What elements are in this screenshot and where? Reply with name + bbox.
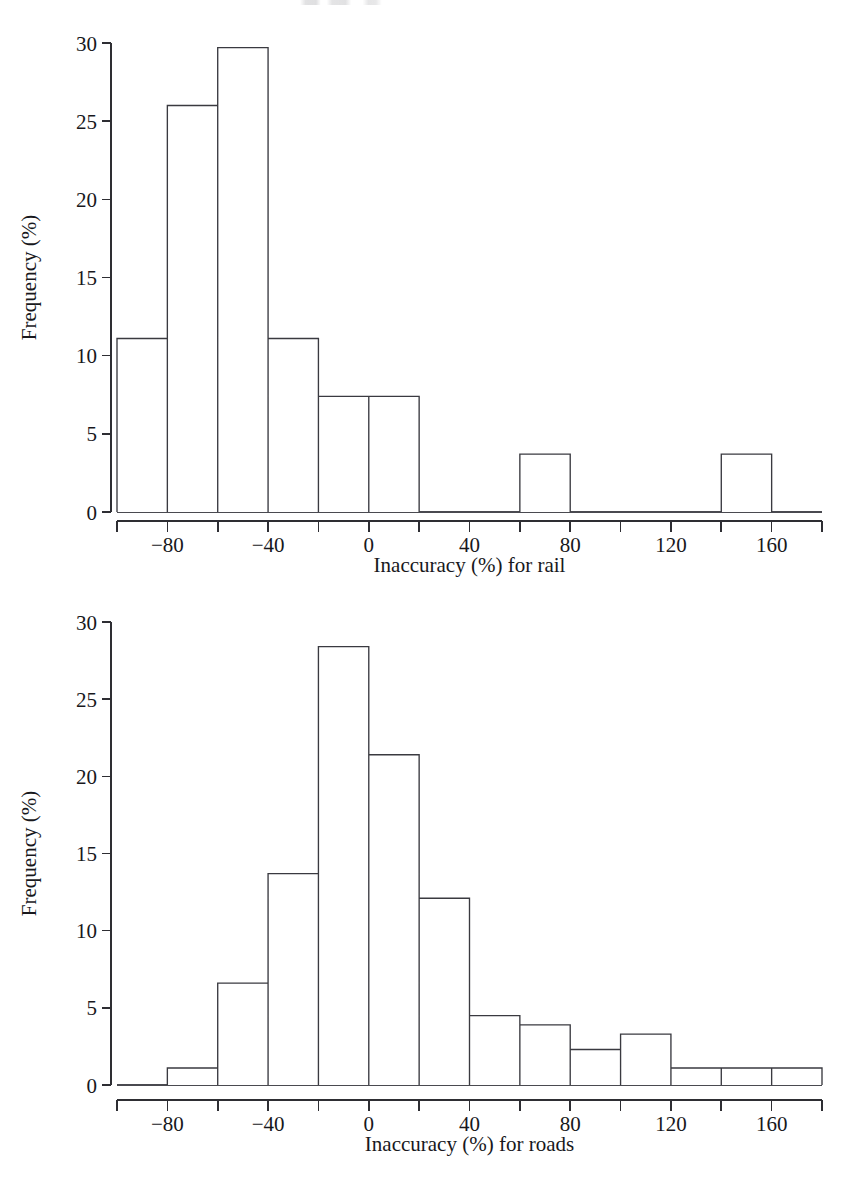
x-tick-label: 120 [655,533,687,557]
y-tick-label: 5 [87,422,98,446]
x-tick-label: 0 [364,533,375,557]
y-tick-label: 10 [76,919,97,943]
chart-roads: 051015202530Frequency (%)−80−40040801201… [0,600,849,1192]
y-tick-label: 0 [87,501,98,525]
y-tick-label: 5 [87,996,98,1020]
y-tick-label: 30 [76,32,97,56]
y-tick-label: 15 [76,842,97,866]
x-tick-label: −40 [252,533,285,557]
y-tick-label: 15 [76,266,97,290]
y-axis-title: Frequency (%) [17,791,41,916]
y-tick-label: 0 [87,1074,98,1098]
histogram-bars [117,48,772,512]
figure-page: 051015202530Frequency (%)−80−40040801201… [0,0,849,1192]
x-tick-label: 160 [756,533,788,557]
x-tick-label: 160 [756,1112,788,1136]
y-tick-label: 10 [76,344,97,368]
y-axis-title: Frequency (%) [17,215,41,340]
x-axis-title: Inaccuracy (%) for roads [365,1132,574,1156]
y-tick-label: 20 [76,188,97,212]
histogram-bars [167,647,822,1085]
y-tick-label: 25 [76,688,97,712]
rail-histogram-svg: 051015202530Frequency (%)−80−40040801201… [0,0,849,600]
x-axis-title: Inaccuracy (%) for rail [374,553,566,577]
y-tick-label: 25 [76,110,97,134]
x-tick-label: 120 [655,1112,687,1136]
y-tick-label: 20 [76,765,97,789]
roads-histogram-svg: 051015202530Frequency (%)−80−40040801201… [0,600,849,1192]
x-tick-label: −80 [151,533,184,557]
x-tick-label: −40 [252,1112,285,1136]
x-tick-label: −80 [151,1112,184,1136]
chart-rail: 051015202530Frequency (%)−80−40040801201… [0,0,849,600]
y-tick-label: 30 [76,611,97,635]
